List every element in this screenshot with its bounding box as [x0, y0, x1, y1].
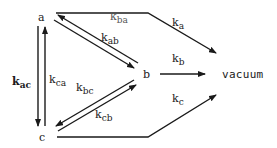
label-k-cb: kcb: [95, 108, 113, 123]
label-k-bc: kbc: [76, 81, 93, 96]
arrow-a-to-vacuum: [56, 13, 216, 53]
label-k-b: kb: [172, 52, 185, 67]
kinetic-diagram: a b c vacuum kab kba kac kca kbc kcb ka …: [0, 0, 277, 148]
label-k-a: ka: [172, 16, 185, 31]
node-a: a: [38, 11, 45, 24]
node-b: b: [143, 68, 150, 81]
label-k-ab: kab: [101, 31, 119, 46]
label-k-ac: kac: [12, 75, 31, 90]
arrow-a-to-b: [54, 20, 134, 68]
node-c: c: [39, 131, 45, 144]
label-k-ca: kca: [49, 73, 67, 88]
label-k-c: kc: [172, 92, 184, 107]
arrow-c-to-vacuum: [57, 95, 216, 137]
label-k-ba: kba: [110, 10, 128, 25]
node-vacuum: vacuum: [222, 68, 264, 81]
